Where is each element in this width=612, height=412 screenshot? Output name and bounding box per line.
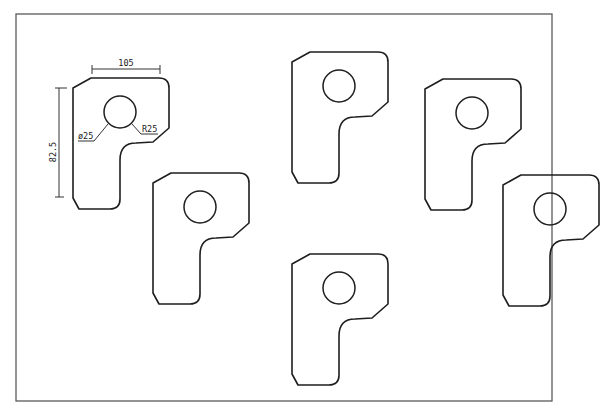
- part-hole: [456, 97, 488, 129]
- part-outline: [503, 175, 599, 306]
- part-outline: [425, 79, 521, 210]
- height-dimension: 82.5: [48, 88, 67, 197]
- part-outline: [292, 52, 388, 183]
- part-2: [292, 52, 388, 183]
- width-dimension: 105: [92, 58, 160, 74]
- hole-diameter-label: ø25: [78, 131, 93, 141]
- part-hole: [104, 96, 136, 128]
- corner-radius-label: R25: [142, 124, 157, 134]
- part-5: [292, 254, 388, 385]
- parts-layer: [73, 52, 599, 385]
- corner-radius-leader: R25: [132, 124, 158, 134]
- dimension-annotations: 105 82.5 ø25 R25: [48, 58, 160, 197]
- hole-diameter-leader: ø25: [78, 124, 108, 141]
- part-4: [153, 173, 249, 304]
- part-hole: [184, 191, 216, 223]
- part-6: [503, 175, 599, 306]
- part-hole: [323, 272, 355, 304]
- part-hole: [534, 193, 566, 225]
- height-dimension-label: 82.5: [48, 142, 58, 162]
- part-outline: [292, 254, 388, 385]
- drawing-border: [16, 14, 552, 401]
- cad-drawing-canvas: 105 82.5 ø25 R25: [0, 0, 612, 412]
- part-outline: [73, 78, 169, 209]
- part-hole: [323, 70, 355, 102]
- part-3: [425, 79, 521, 210]
- part-outline: [153, 173, 249, 304]
- part-1: [73, 78, 169, 209]
- width-dimension-label: 105: [118, 58, 133, 68]
